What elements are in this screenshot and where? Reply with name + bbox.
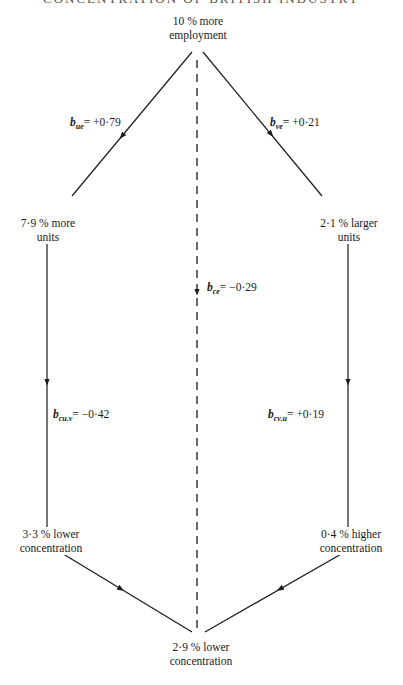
- node-lower-concentration-left-line2: concentration: [8, 541, 94, 555]
- coef-b-ve: bve= +0·21: [270, 116, 320, 131]
- node-larger-units-line1: 2·1 % larger: [304, 216, 394, 230]
- coef-b-cu-v-subscript: cu.v: [59, 414, 73, 423]
- node-more-units-line1: 7·9 % more: [5, 216, 91, 230]
- coef-b-cv-u-value: = +0·19: [287, 408, 324, 420]
- node-employment-line1: 10 % more: [162, 14, 234, 28]
- coef-b-ce-value: = −0·29: [220, 281, 257, 293]
- node-lower-concentration-left: 3·3 % lower concentration: [8, 527, 94, 555]
- node-net-lower-concentration-line1: 2·9 % lower: [156, 640, 246, 654]
- edge-right-low-to-bottom: [205, 549, 350, 632]
- node-lower-concentration-left-line1: 3·3 % lower: [8, 527, 94, 541]
- coef-b-cv-u: bcv.u= +0·19: [268, 408, 324, 423]
- coef-b-ve-subscript: ve: [276, 122, 283, 131]
- coef-b-cu-v-value: = −0·42: [72, 408, 109, 420]
- node-larger-units-line2: units: [304, 230, 394, 244]
- edge-left-low-to-bottom: [55, 549, 192, 632]
- node-employment: 10 % more employment: [162, 14, 234, 42]
- node-more-units-line2: units: [5, 230, 91, 244]
- node-net-lower-concentration-line2: concentration: [156, 654, 246, 668]
- node-higher-concentration-right: 0·4 % higher concentration: [305, 527, 397, 555]
- coef-b-ue-value: = +0·79: [84, 116, 121, 128]
- node-higher-concentration-right-line2: concentration: [305, 541, 397, 555]
- coef-b-cv-u-subscript: cv.u: [274, 414, 287, 423]
- coef-b-ce-subscript: ce: [213, 287, 220, 296]
- node-more-units: 7·9 % more units: [5, 216, 91, 244]
- coef-b-ue-subscript: ue: [76, 122, 84, 131]
- node-higher-concentration-right-line1: 0·4 % higher: [305, 527, 397, 541]
- path-diagram: [0, 0, 403, 685]
- coef-b-ce: bce= −0·29: [207, 281, 257, 296]
- node-net-lower-concentration: 2·9 % lower concentration: [156, 640, 246, 668]
- node-employment-line2: employment: [162, 28, 234, 42]
- node-larger-units: 2·1 % larger units: [304, 216, 394, 244]
- coef-b-ve-value: = +0·21: [283, 116, 320, 128]
- coef-b-cu-v: bcu.v= −0·42: [53, 408, 109, 423]
- coef-b-ue: bue= +0·79: [70, 116, 121, 131]
